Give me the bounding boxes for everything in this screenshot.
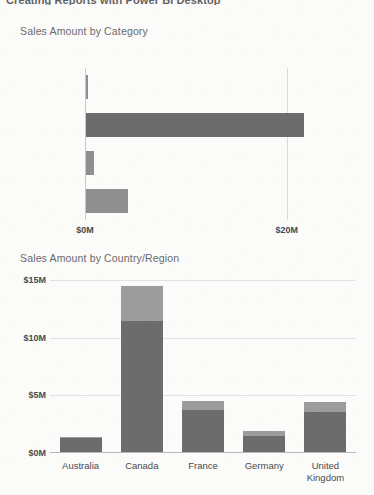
chart2-stacked-bar	[60, 437, 102, 452]
chart2-plot-area: $0M$5M$10M$15MAustraliaCanadaFranceGerma…	[50, 280, 356, 453]
chart2-category-axis	[50, 452, 356, 453]
chart2-bar-segment	[243, 431, 285, 436]
chart2-bar-segment	[121, 286, 163, 321]
chart2-axis-tick-label: $0M	[28, 448, 46, 458]
chart2-axis-tick-label: $10M	[23, 333, 46, 343]
chart1-title: Sales Amount by Category	[20, 25, 148, 37]
chart2-gridline	[50, 338, 356, 339]
chart2-gridline	[50, 395, 356, 396]
chart2-category-label: Germany	[234, 460, 295, 472]
chart1-bar	[86, 189, 128, 213]
chart1-bar	[86, 75, 88, 99]
chart1-axis-tick-label: $0M	[76, 225, 94, 235]
chart2-bar-segment	[121, 321, 163, 452]
chart1-bar	[86, 151, 94, 175]
chart2-stacked-bar	[182, 401, 224, 452]
chart2-category-label: Canada	[111, 460, 172, 472]
chart2-bar-segment	[304, 412, 346, 452]
chart1-axis-tick-label: $20M	[275, 225, 298, 235]
chart1-gridline	[287, 68, 288, 220]
chart2-title: Sales Amount by Country/Region	[20, 252, 179, 264]
chart2-bar-segment	[304, 402, 346, 411]
chart2-bar-segment	[243, 436, 285, 452]
chart2-axis-tick-label: $5M	[28, 390, 46, 400]
chart1-bar	[86, 113, 304, 137]
chart2-category-label: United Kingdom	[295, 460, 356, 484]
chart2-stacked-bar	[243, 431, 285, 452]
chart-sales-amount-by-category: Sales Amount by Category AccessoriesBike…	[0, 18, 374, 233]
chart2-stacked-bar	[304, 402, 346, 452]
chart2-gridline	[50, 280, 356, 281]
chart2-stacked-bar	[121, 286, 163, 452]
chart2-bar-segment	[60, 438, 102, 452]
chart2-axis-tick-label: $15M	[23, 275, 46, 285]
page-heading: Creating Reports with Power BI Desktop	[6, 0, 366, 5]
chart2-bar-segment	[182, 410, 224, 452]
chart2-bar-segment	[60, 437, 102, 438]
chart1-plot-area: AccessoriesBikesClothingComponents$0M$20…	[85, 68, 321, 220]
chart-sales-amount-by-country-region: Sales Amount by Country/Region $0M$5M$10…	[0, 245, 374, 495]
chart2-bar-segment	[182, 401, 224, 410]
chart2-category-label: Australia	[50, 460, 111, 472]
chart2-category-label: France	[172, 460, 233, 472]
